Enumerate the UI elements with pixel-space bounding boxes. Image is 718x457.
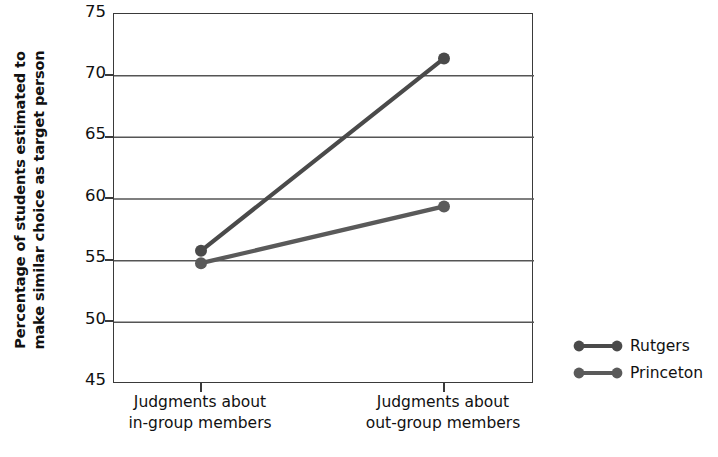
gridlines: [114, 76, 534, 323]
y-tick-label-65: 65: [60, 126, 106, 143]
x-axis-label-in-group: Judgments about in-group members: [85, 392, 315, 434]
legend: Rutgers Princeton: [572, 332, 718, 386]
y-axis-title: Percentage of students estimated to make…: [0, 0, 60, 400]
y-tick-mark-70: [105, 74, 113, 76]
y-tick-mark-50: [105, 320, 113, 322]
legend-item-princeton[interactable]: Princeton: [572, 359, 718, 386]
y-tick-label-75: 75: [60, 4, 106, 21]
legend-label-princeton: Princeton: [630, 364, 703, 382]
plot-canvas: [114, 14, 534, 384]
y-tick-label-60: 60: [60, 188, 106, 205]
x-axis-label-out-group-line-2: out-group members: [328, 413, 558, 434]
x-tick-mark-in-group: [200, 383, 202, 392]
y-axis-title-line-2: make similar choice as target person: [30, 50, 49, 349]
legend-item-rutgers[interactable]: Rutgers: [572, 332, 718, 359]
series-layer: [195, 52, 450, 269]
x-axis-label-out-group: Judgments about out-group members: [328, 392, 558, 434]
data-point-rutgers-0[interactable]: [195, 245, 207, 257]
y-tick-mark-65: [105, 136, 113, 138]
series-line-rutgers: [201, 58, 444, 250]
data-point-princeton-1[interactable]: [438, 200, 450, 212]
x-axis-label-out-group-line-1: Judgments about: [328, 392, 558, 413]
legend-marker-rutgers-icon: [572, 338, 624, 354]
series-line-princeton: [201, 206, 444, 263]
y-tick-label-70: 70: [60, 65, 106, 82]
plot-area: [113, 13, 533, 383]
y-tick-mark-60: [105, 197, 113, 199]
legend-label-rutgers: Rutgers: [630, 337, 690, 355]
data-point-princeton-0[interactable]: [195, 257, 207, 269]
y-tick-label-45: 45: [60, 372, 106, 389]
legend-marker-princeton-icon: [572, 365, 624, 381]
data-point-rutgers-1[interactable]: [438, 52, 450, 64]
y-axis-tick-labels: 75 70 65 60 55 50 45: [58, 0, 106, 457]
y-tick-mark-55: [105, 259, 113, 261]
x-axis-label-in-group-line-2: in-group members: [85, 413, 315, 434]
y-tick-label-55: 55: [60, 249, 106, 266]
chart-figure: Percentage of students estimated to make…: [0, 0, 718, 457]
x-tick-mark-out-group: [443, 383, 445, 392]
y-axis-title-line-1: Percentage of students estimated to: [11, 50, 30, 349]
y-tick-label-50: 50: [60, 311, 106, 328]
x-axis-label-in-group-line-1: Judgments about: [85, 392, 315, 413]
